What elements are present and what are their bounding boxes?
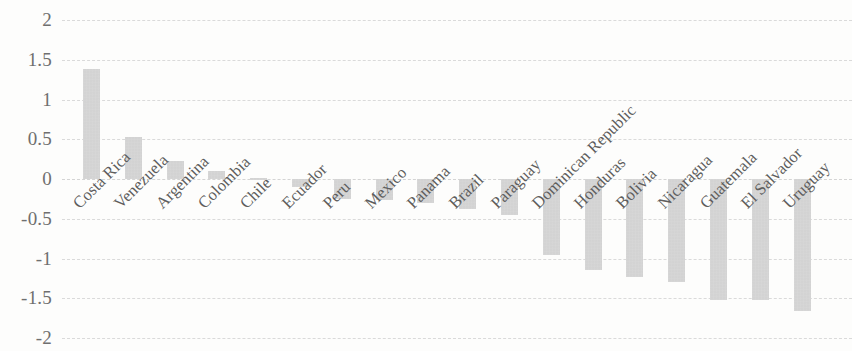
gridline-0_5 bbox=[62, 139, 852, 140]
gridline-neg1 bbox=[62, 259, 852, 260]
gridline-1_5 bbox=[62, 60, 852, 61]
bar-chart: 21.510.50-0.5-1-1.5-2 Costa RicaVenezuel… bbox=[0, 0, 852, 351]
y-axis-tick-label: -1 bbox=[36, 248, 52, 270]
gridline-neg0_5 bbox=[62, 219, 852, 220]
y-axis: 21.510.50-0.5-1-1.5-2 bbox=[0, 0, 56, 351]
y-axis-tick-label: 1.5 bbox=[28, 49, 52, 71]
y-axis-tick-label: 0.5 bbox=[28, 128, 52, 150]
bar bbox=[83, 69, 100, 179]
gridline-2 bbox=[62, 20, 852, 21]
y-axis-tick-label: 2 bbox=[42, 9, 52, 31]
y-axis-tick-label: -2 bbox=[36, 327, 52, 349]
gridline-1 bbox=[62, 100, 852, 101]
gridline-neg1_5 bbox=[62, 298, 852, 299]
y-axis-tick-label: -0.5 bbox=[21, 208, 52, 230]
gridline-neg2 bbox=[62, 338, 852, 339]
y-axis-tick-label: -1.5 bbox=[21, 287, 52, 309]
y-axis-tick-label: 1 bbox=[42, 89, 52, 111]
y-axis-tick-label: 0 bbox=[42, 168, 52, 190]
